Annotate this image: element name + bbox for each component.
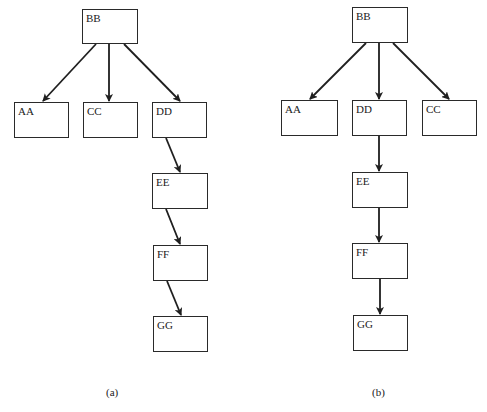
node-label: AA bbox=[285, 103, 301, 116]
node-label: AA bbox=[18, 105, 34, 118]
node-cc: CC bbox=[422, 100, 477, 136]
node-label: CC bbox=[87, 105, 102, 118]
node-ee: EE bbox=[352, 172, 408, 208]
edge-bb-to-aa bbox=[43, 44, 96, 101]
node-label: GG bbox=[157, 319, 173, 332]
caption-a: (a) bbox=[106, 386, 118, 399]
edge-bb-to-cc bbox=[393, 43, 449, 99]
caption-b: (b) bbox=[372, 386, 385, 399]
edges-layer bbox=[0, 0, 487, 412]
node-gg: GG bbox=[353, 315, 408, 351]
edge-ee-to-ff bbox=[166, 209, 180, 244]
node-bb: BB bbox=[82, 9, 138, 44]
node-label: BB bbox=[86, 12, 101, 25]
edge-bb-to-aa bbox=[310, 43, 366, 99]
node-label: FF bbox=[356, 246, 368, 259]
node-label: DD bbox=[356, 103, 372, 116]
node-ee: EE bbox=[152, 173, 208, 209]
node-label: DD bbox=[156, 105, 172, 118]
node-label: CC bbox=[426, 103, 441, 116]
node-label: BB bbox=[356, 10, 371, 23]
node-bb: BB bbox=[352, 7, 408, 43]
node-label: EE bbox=[356, 175, 369, 188]
node-label: GG bbox=[357, 318, 373, 331]
node-label: FF bbox=[157, 248, 169, 261]
node-ff: FF bbox=[352, 243, 408, 279]
node-dd: DD bbox=[352, 100, 407, 136]
edge-bb-to-dd bbox=[124, 44, 180, 101]
node-aa: AA bbox=[281, 100, 338, 136]
edge-ff-to-gg bbox=[167, 281, 181, 315]
node-gg: GG bbox=[153, 316, 208, 352]
node-cc: CC bbox=[83, 102, 138, 138]
node-label: EE bbox=[156, 176, 169, 189]
node-ff: FF bbox=[153, 245, 208, 281]
node-aa: AA bbox=[14, 102, 69, 138]
node-dd: DD bbox=[152, 102, 207, 138]
edge-dd-to-ee bbox=[166, 138, 180, 172]
